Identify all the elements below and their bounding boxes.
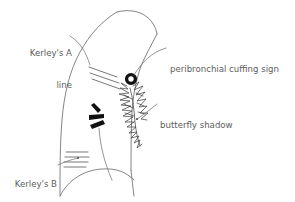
radiograph-diagram: Kerley's A line peribronchial cuffing si… (0, 0, 295, 202)
label-peribronchial-cuffing-sign-1: peribronchial cuffing sign (170, 64, 294, 75)
leader-lines-group (58, 36, 166, 180)
leader-dots-group (77, 118, 138, 159)
air-bronchogram-mark-1 (91, 103, 101, 113)
kerleys-a-line-1 (89, 67, 117, 77)
kerleys-b-lines-group (64, 152, 89, 167)
kerleys-b-leader-line (58, 158, 78, 165)
peribronchial-cuffing-leader-line (134, 48, 166, 75)
air-bronchogram-leader-line (99, 128, 112, 180)
label-kerleys-b-line: Kerley's B line (0, 158, 57, 202)
butterfly-shadow-fringe-2 (136, 93, 145, 114)
kerleys-a-lines-group (89, 67, 120, 89)
label-air-bronchogram: air bronchogram (115, 183, 235, 202)
label-kerleys-a-line-2: line (4, 80, 72, 91)
kerleys-a-line-3 (92, 79, 120, 89)
peribronchial-cuffing-lumen (129, 77, 133, 81)
kerleys-b-leader-dot (77, 157, 79, 159)
label-peribronchial-cuffing-sign: peribronchial cuffing sign (170, 43, 294, 96)
kerleys-a-line-2 (90, 73, 119, 83)
air-bronchogram-marks-group (89, 103, 105, 129)
label-kerleys-b-line-1: Kerley's B (0, 179, 57, 190)
label-kerleys-a-line: Kerley's A line (4, 27, 72, 111)
label-butterfly-shadow-1: butterfly shadow (160, 120, 282, 131)
peribronchial-cuffing-ring-group (127, 75, 136, 84)
label-kerleys-a-line-1: Kerley's A (4, 48, 72, 59)
butterfly-shadow-group (119, 82, 148, 148)
lung-apex-arch-path (117, 11, 157, 34)
air-bronchogram-mark-2 (89, 114, 104, 120)
butterfly-shadow-spikes-right (133, 82, 148, 120)
air-bronchogram-mark-3 (90, 120, 105, 129)
label-butterfly-shadow: butterfly shadow (160, 99, 282, 152)
butterfly-shadow-leader-dot (136, 118, 138, 120)
